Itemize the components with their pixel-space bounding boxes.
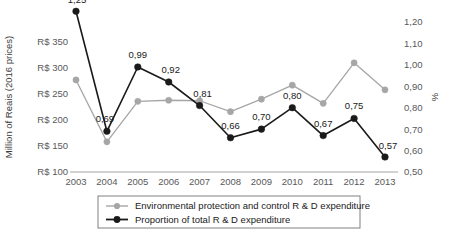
data-point-label: 0,92 <box>161 64 180 75</box>
x-axis-tick-label: 2004 <box>96 176 117 187</box>
data-point-label: 0,69 <box>96 113 115 124</box>
data-point <box>258 96 264 102</box>
x-axis-tick-label: 2008 <box>220 176 241 187</box>
data-point-label: 0,99 <box>129 49 148 60</box>
data-point <box>289 82 295 88</box>
data-point <box>320 132 327 139</box>
legend-swatch-marker <box>114 203 120 209</box>
data-point-label: 0,80 <box>283 90 302 101</box>
data-point <box>73 8 80 15</box>
data-point-label: 0,70 <box>252 111 271 122</box>
data-point <box>73 77 79 83</box>
right-axis-tick-label: 1,20 <box>404 16 423 27</box>
x-axis-tick-label: 2006 <box>158 176 179 187</box>
left-axis-title: Million of Reais (2016 prices) <box>3 36 14 159</box>
left-axis-tick-label: R$ 150 <box>37 140 68 151</box>
legend-item-label: Proportion of total R & D expenditure <box>135 214 290 225</box>
right-axis-tick-label: 0,60 <box>404 145 423 156</box>
data-point <box>351 115 358 122</box>
data-point <box>382 87 388 93</box>
data-point-label: 0,57 <box>379 140 398 151</box>
left-axis-tick-label: R$ 200 <box>37 114 68 125</box>
data-point <box>289 104 296 111</box>
left-axis-tick-label: R$ 300 <box>37 62 68 73</box>
data-point <box>382 154 389 161</box>
right-axis-tick-label: 1,10 <box>404 38 423 49</box>
right-axis-tick-label: 0,90 <box>404 81 423 92</box>
data-point <box>166 97 172 103</box>
right-axis-tick-label: 0,80 <box>404 102 423 113</box>
right-axis-tick-label: 0,50 <box>404 166 423 177</box>
x-axis-tick-label: 2003 <box>65 176 86 187</box>
left-axis: R$ 100R$ 150R$ 200R$ 250R$ 300R$ 350 <box>37 36 68 177</box>
legend-item-environmental-expenditure[interactable]: Environmental protection and control R &… <box>106 200 370 211</box>
data-point <box>104 128 111 135</box>
data-point <box>320 100 326 106</box>
x-axis-tick-label: 2010 <box>282 176 303 187</box>
chart-container: R$ 100R$ 150R$ 200R$ 250R$ 300R$ 350Mill… <box>0 0 451 243</box>
data-point <box>135 64 142 71</box>
data-point-label: 0,75 <box>345 100 364 111</box>
data-point <box>104 139 110 145</box>
data-point <box>258 126 265 133</box>
data-point-label: 1,25 <box>68 0 87 5</box>
x-axis-tick-label: 2013 <box>374 176 395 187</box>
left-axis-tick-label: R$ 100 <box>37 166 68 177</box>
x-axis-tick-label: 2009 <box>251 176 272 187</box>
data-point <box>351 60 357 66</box>
legend-item-label: Environmental protection and control R &… <box>135 200 370 211</box>
data-point <box>227 134 234 141</box>
right-axis-tick-label: 1,00 <box>404 59 423 70</box>
x-axis-tick-label: 2007 <box>189 176 210 187</box>
data-point-label: 0,66 <box>221 120 240 131</box>
legend-swatch-marker <box>114 216 121 223</box>
x-axis-tick-label: 2012 <box>344 176 365 187</box>
data-point-label: 0,67 <box>314 118 333 129</box>
series-proportion-total: 1,250,690,990,920,810,660,700,800,670,75… <box>68 0 398 160</box>
right-axis-tick-label: 0,70 <box>404 124 423 135</box>
line-chart: R$ 100R$ 150R$ 200R$ 250R$ 300R$ 350Mill… <box>0 0 451 243</box>
left-axis-tick-label: R$ 350 <box>37 36 68 47</box>
right-axis-title: % <box>429 92 440 101</box>
x-axis-tick-label: 2011 <box>313 176 333 187</box>
left-axis-tick-label: R$ 250 <box>37 88 68 99</box>
data-point <box>196 102 203 109</box>
legend: Environmental protection and control R &… <box>98 196 370 228</box>
data-point <box>227 109 233 115</box>
data-point-label: 0,81 <box>193 88 212 99</box>
data-point <box>135 98 141 104</box>
data-point <box>165 79 172 86</box>
x-axis-tick-label: 2005 <box>127 176 148 187</box>
